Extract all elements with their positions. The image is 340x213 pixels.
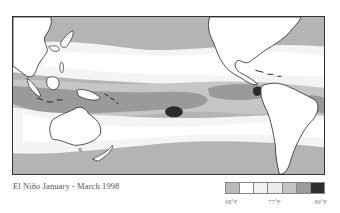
- temperature-legend: 68°F 77°F 86°F: [225, 182, 325, 208]
- legend-swatch-2: [240, 183, 254, 193]
- legend-swatch-4: [268, 183, 282, 193]
- legend-swatch-6: [297, 183, 311, 193]
- map-graphic: [13, 17, 324, 174]
- legend-swatch-7: [311, 183, 324, 193]
- map-caption: El Niño January - March 1998: [13, 181, 119, 191]
- legend-label-high: 86°F: [314, 198, 327, 205]
- legend-swatches: [225, 182, 325, 194]
- borneo-land: [47, 77, 59, 90]
- legend-label-low: 68°F: [225, 198, 238, 205]
- legend-swatch-5: [283, 183, 297, 193]
- legend-labels: 68°F 77°F 86°F: [225, 198, 325, 208]
- philippines-land: [60, 62, 64, 73]
- legend-swatch-3: [254, 183, 268, 193]
- hot-spot-central-pacific: [165, 106, 183, 117]
- legend-swatch-1: [226, 183, 240, 193]
- legend-label-mid: 77°F: [268, 198, 281, 205]
- sst-map: [12, 16, 325, 175]
